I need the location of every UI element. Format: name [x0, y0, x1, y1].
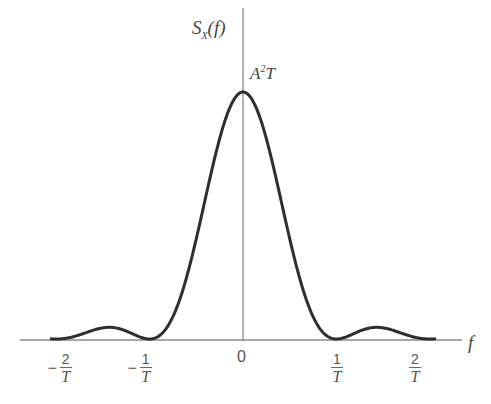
tick-denominator: T [141, 368, 150, 385]
y-label-main: S [192, 17, 202, 38]
y-label-arg: (f) [208, 17, 226, 38]
tick-denominator: T [333, 368, 342, 385]
peak-label-tail: T [265, 64, 274, 83]
x-tick-minus-2-over-T: − 2T [48, 352, 72, 385]
tick-numerator: 1 [333, 352, 341, 367]
x-tick-1-over-T: 1T [331, 352, 343, 385]
x-axis-label: f [468, 332, 473, 354]
x-tick-zero: 0 [237, 348, 246, 366]
tick-sign: − [48, 359, 57, 376]
tick-denominator: T [411, 368, 420, 385]
y-axis-label: SX(f) [192, 17, 226, 41]
peak-label: A2T [250, 63, 275, 84]
x-tick-2-over-T: 2T [409, 352, 421, 385]
x-tick-minus-1-over-T: − 1T [128, 352, 152, 385]
tick-sign: − [128, 359, 137, 376]
peak-label-base: A [250, 64, 260, 83]
tick-numerator: 2 [62, 352, 70, 367]
tick-denominator: T [61, 368, 70, 385]
chart-plot-area [0, 0, 491, 404]
tick-numerator: 2 [411, 352, 419, 367]
tick-numerator: 1 [142, 352, 150, 367]
